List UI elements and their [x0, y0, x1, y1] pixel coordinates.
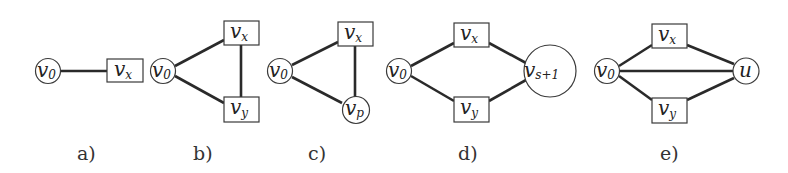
node-vy: vy — [652, 96, 687, 123]
node-sub: x — [471, 32, 478, 46]
node-base: v — [658, 22, 670, 46]
node-vx: vx — [652, 22, 687, 48]
caption-b: b) — [193, 142, 213, 164]
node-base: v — [460, 95, 472, 119]
node-vx: vx — [338, 20, 373, 46]
node-sub: s+1 — [535, 68, 559, 82]
node-base: v — [524, 58, 536, 82]
node-vx: vx — [107, 57, 143, 82]
node-vp: vp — [343, 96, 370, 124]
node-sub: x — [355, 31, 362, 45]
node-v0: v0 — [268, 58, 293, 84]
node-sub: x — [241, 30, 248, 44]
caption-a: a) — [77, 142, 96, 164]
figure-canvas: v0 vx a) v0 vx vy b) v0 — [0, 0, 788, 173]
edge-v0-vp — [292, 77, 342, 103]
node-v0: v0 — [151, 58, 176, 84]
node-sub: 0 — [48, 68, 56, 82]
edge-v0-vy — [411, 76, 454, 101]
caption-d: d) — [458, 142, 478, 164]
panel-e: v0 vx vy u e) — [595, 22, 760, 164]
edge-v0-vx — [175, 40, 224, 66]
node-base: v — [460, 21, 472, 45]
node-sub: y — [668, 107, 676, 121]
edge-v0-vx — [619, 45, 652, 66]
edge-vx-u — [687, 45, 734, 64]
panel-b: v0 vx vy b) — [151, 19, 260, 164]
node-sub: 0 — [607, 68, 615, 82]
panel-d: v0 vx vy vs+1 d) — [387, 21, 577, 164]
node-base: v — [230, 95, 242, 119]
edge-v0-vy — [619, 76, 652, 100]
node-base: v — [388, 58, 400, 82]
node-base: v — [344, 20, 356, 44]
caption-c: c) — [308, 142, 326, 164]
panel-a: v0 vx a) — [36, 57, 144, 164]
edge-vy-vs1 — [489, 80, 526, 101]
edge-v0-vy — [175, 76, 224, 103]
node-base: u — [739, 58, 752, 82]
node-sub: x — [125, 68, 132, 82]
node-vx: vx — [224, 19, 259, 45]
node-u: u — [733, 58, 759, 84]
node-sub: y — [470, 106, 478, 120]
caption-e: e) — [660, 142, 679, 164]
node-vy: vy — [454, 95, 489, 122]
edge-v0-vx — [411, 43, 454, 66]
node-base: v — [37, 58, 49, 82]
node-vy: vy — [224, 95, 259, 122]
panel-c: v0 vx vp c) — [268, 20, 374, 164]
node-base: v — [152, 58, 164, 82]
node-base: v — [269, 58, 281, 82]
node-v0: v0 — [36, 58, 61, 84]
node-base: v — [345, 96, 357, 120]
node-base: v — [658, 96, 670, 120]
node-vx: vx — [454, 21, 489, 47]
svg-text:u: u — [739, 58, 752, 82]
edge-vy-u — [687, 78, 734, 100]
edge-vx-vs1 — [489, 43, 526, 63]
node-sub: 0 — [163, 68, 171, 82]
node-sub: p — [356, 106, 364, 120]
node-base: v — [596, 58, 608, 82]
node-base: v — [230, 19, 242, 43]
node-base: v — [114, 57, 126, 81]
node-sub: 0 — [280, 68, 288, 82]
node-sub: 0 — [399, 68, 407, 82]
node-vs1: vs+1 — [524, 45, 576, 97]
node-v0: v0 — [595, 58, 620, 84]
node-sub: x — [669, 33, 676, 47]
node-sub: y — [240, 106, 248, 120]
node-v0: v0 — [387, 58, 412, 84]
edge-v0-vx — [292, 42, 338, 65]
